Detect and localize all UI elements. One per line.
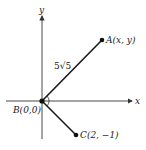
x-axis-label: x [135, 96, 140, 106]
y-axis-label: y [38, 5, 45, 15]
point-B [39, 98, 44, 103]
point-C-label: C(2, −1) [80, 130, 119, 140]
segment-BA [42, 40, 102, 101]
point-A [100, 38, 105, 43]
point-A-label: A(x, y) [105, 35, 136, 45]
point-C [74, 133, 79, 138]
point-B-label: B(0,0) [12, 105, 41, 115]
segment-length-label: 5√5 [54, 61, 71, 71]
coordinate-diagram: x y A(x, y) B(0,0) C(2, −1) 5√5 [0, 0, 146, 150]
